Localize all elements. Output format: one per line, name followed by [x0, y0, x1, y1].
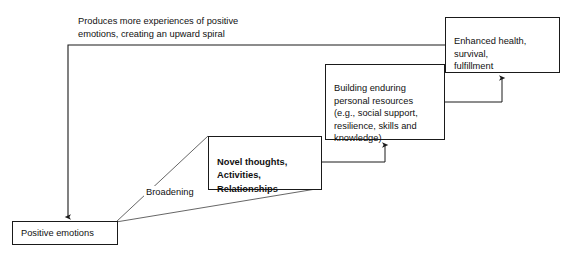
edge-building-to-health	[445, 78, 502, 102]
node-building-resources-label: Building enduring personal resources (e.…	[334, 83, 418, 143]
node-building-resources[interactable]: Building enduring personal resources (e.…	[325, 64, 445, 140]
diagram-canvas: Positive emotions Novel thoughts, Activi…	[0, 0, 578, 255]
label-broadening: Broadening	[144, 186, 196, 199]
node-positive-emotions[interactable]: Positive emotions	[12, 221, 118, 245]
node-novel-thoughts-label: Novel thoughts, Activities, Relationship…	[217, 157, 287, 194]
node-novel-thoughts[interactable]: Novel thoughts, Activities, Relationship…	[208, 136, 322, 190]
label-upward-spiral: Produces more experiences of positive em…	[78, 15, 238, 40]
edge-broaden-upper	[116, 136, 208, 222]
node-enhanced-health-label: Enhanced health, survival, fulfillment	[454, 36, 526, 71]
node-enhanced-health[interactable]: Enhanced health, survival, fulfillment	[445, 17, 560, 73]
edge-novel-to-building	[322, 145, 385, 162]
node-positive-emotions-label: Positive emotions	[21, 227, 94, 239]
